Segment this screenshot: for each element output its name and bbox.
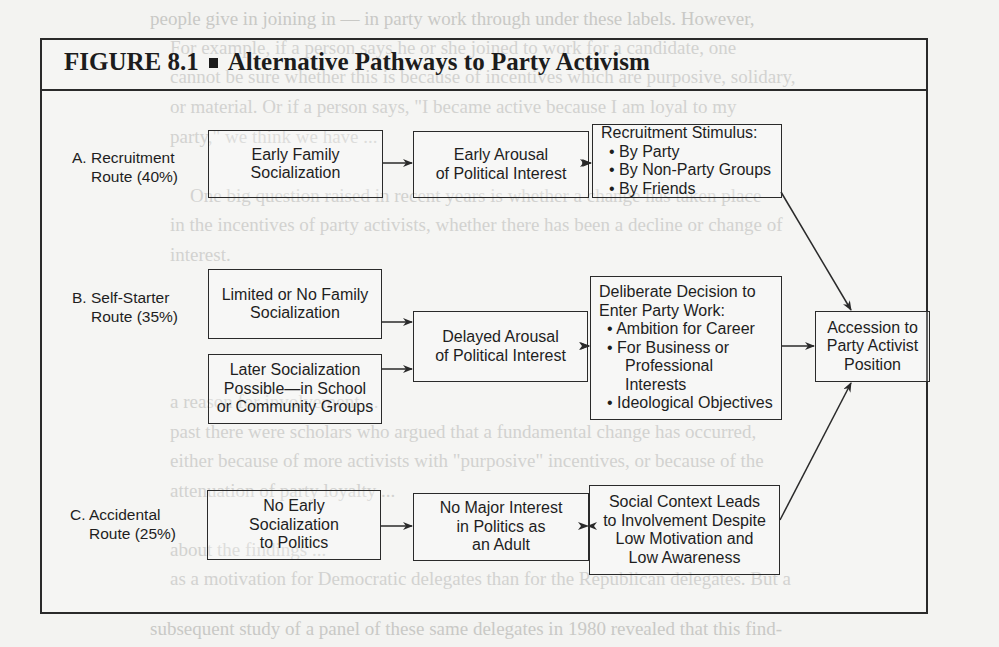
route-label-line: Route (25%)	[70, 524, 176, 543]
box-line: Socialization	[249, 516, 339, 535]
box-line: Possible—in School	[224, 380, 366, 399]
box-line: to Involvement Despite	[603, 512, 766, 531]
box-later-socialization: Later Socialization Possible—in School o…	[208, 354, 382, 424]
box-line: Accession to	[827, 319, 918, 338]
box-line: Early Family	[251, 146, 339, 165]
box-heading: Enter Party Work:	[599, 302, 725, 321]
box-no-major-interest: No Major Interest in Politics as an Adul…	[413, 493, 589, 561]
box-deliberate-decision: Deliberate Decision to Enter Party Work:…	[590, 276, 782, 420]
box-line: an Adult	[472, 536, 530, 555]
box-list-item: • For Business or	[599, 339, 729, 358]
box-list-item: • By Friends	[601, 180, 696, 199]
box-line: Low Motivation and	[616, 530, 754, 549]
box-heading: Recruitment Stimulus:	[601, 124, 758, 143]
figure-title-text: Alternative Pathways to Party Activism	[228, 48, 650, 75]
bleed-line: subsequent study of a panel of these sam…	[150, 614, 782, 644]
box-list-item: • Ambition for Career	[599, 320, 755, 339]
box-line: Limited or No Family	[222, 286, 369, 305]
box-delayed-arousal: Delayed Arousal of Political Interest	[413, 311, 588, 382]
box-line: Socialization	[251, 164, 341, 183]
box-recruitment-stimulus: Recruitment Stimulus: • By Party • By No…	[592, 124, 782, 198]
box-line: No Major Interest	[440, 499, 563, 518]
box-line: Socialization	[250, 304, 340, 323]
figure-title: FIGURE 8.1Alternative Pathways to Party …	[64, 48, 650, 76]
box-line: Social Context Leads	[609, 493, 760, 512]
route-label-self-starter: B. Self-Starter Route (35%)	[72, 288, 178, 326]
route-label-line: Route (35%)	[72, 307, 178, 326]
box-list-item: • By Party	[601, 143, 680, 162]
route-label-accidental: C. Accidental Route (25%)	[70, 505, 176, 543]
box-line: or Community Groups	[217, 398, 374, 417]
box-early-arousal: Early Arousal of Political Interest	[413, 131, 589, 198]
box-line: Low Awareness	[629, 549, 741, 568]
box-line: of Political Interest	[436, 165, 567, 184]
box-line: Early Arousal	[454, 146, 548, 165]
box-line: No Early	[263, 497, 324, 516]
box-line: Party Activist	[827, 337, 919, 356]
box-line: Position	[844, 356, 901, 375]
route-label-line: B. Self-Starter	[72, 289, 169, 306]
box-heading: Deliberate Decision to	[599, 283, 756, 302]
box-limited-family-socialization: Limited or No Family Socialization	[208, 269, 382, 339]
figure-title-band: FIGURE 8.1Alternative Pathways to Party …	[42, 40, 926, 91]
box-list-item: Professional	[599, 357, 713, 376]
figure-label: FIGURE 8.1	[64, 48, 199, 75]
box-line: in Politics as	[457, 518, 546, 537]
route-label-recruitment: A. Recruitment Route (40%)	[72, 148, 178, 186]
box-accession-to-party-activist: Accession to Party Activist Position	[815, 311, 930, 382]
route-label-line: Route (40%)	[72, 167, 178, 186]
box-no-early-socialization: No Early Socialization to Politics	[207, 490, 381, 560]
bleed-line: people give in joining in — in party wor…	[150, 4, 754, 34]
box-social-context: Social Context Leads to Involvement Desp…	[589, 485, 780, 575]
bullet-square-icon	[209, 58, 218, 68]
box-list-item: • By Non-Party Groups	[601, 161, 771, 180]
box-line: Later Socialization	[230, 361, 361, 380]
route-label-line: A. Recruitment	[72, 149, 175, 166]
box-list-item: • Ideological Objectives	[599, 394, 773, 413]
box-list-item: Interests	[599, 376, 686, 395]
box-line: of Political Interest	[435, 347, 566, 366]
box-early-family-socialization: Early Family Socialization	[208, 130, 383, 198]
route-label-line: C. Accidental	[70, 506, 160, 523]
box-line: Delayed Arousal	[442, 328, 559, 347]
box-line: to Politics	[260, 534, 328, 553]
